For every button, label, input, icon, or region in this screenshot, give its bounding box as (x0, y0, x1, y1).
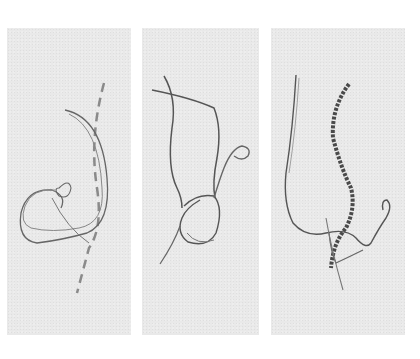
chain-stitch-illustration (271, 28, 405, 335)
stitch-panel-2: tangled thread loops with needle (142, 28, 259, 335)
stitch-panel-1: loose thread loops with dashed running s… (7, 28, 131, 335)
running-stitch-illustration (7, 28, 131, 335)
stitch-panel-3: thread with twisted chain stitch line an… (271, 28, 405, 335)
tangled-thread-illustration (142, 28, 259, 335)
